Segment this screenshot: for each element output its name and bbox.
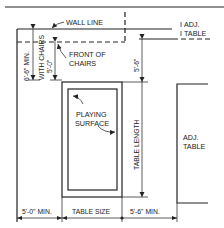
wall-line-label: WALL LINE xyxy=(66,18,103,27)
front-of-chairs-label: FRONT OF xyxy=(69,50,106,59)
dim-label-table-size: TABLE SIZE xyxy=(72,208,110,215)
playing-surface-label: SURFACE xyxy=(75,119,109,128)
front-of-chairs-leader xyxy=(58,44,66,58)
adj-table-top-label: TABLE xyxy=(184,29,206,38)
arrow-icon xyxy=(172,216,177,220)
adj-table-right-label: ADJ. xyxy=(183,133,199,142)
playing-surface-leader xyxy=(73,96,83,104)
table-outer-edge xyxy=(62,82,122,197)
dim-label-top-clearance: 5'-6" xyxy=(133,58,140,72)
wall-line-leader xyxy=(52,22,64,28)
dim-dot xyxy=(120,216,123,219)
adj-table-right-label: TABLE xyxy=(183,142,205,151)
with-chairs-label: WITH CHAIRS xyxy=(38,35,45,80)
dim-label-left-min: 6'-6" MIN. xyxy=(23,51,30,81)
arrow-icon xyxy=(17,216,22,220)
arrow-icon xyxy=(57,216,62,220)
adj-table-top-label: ADJ. xyxy=(184,20,200,29)
front-of-chairs-label: CHAIRS xyxy=(69,59,96,68)
dim-label-chairs: 5'-0" xyxy=(46,59,53,73)
playing-surface xyxy=(68,89,117,190)
clearance-diagram: WALL LINE FRONT OF CHAIRS ADJ. TABLE ADJ… xyxy=(0,0,224,228)
table-length-label: TABLE LENGTH xyxy=(133,119,140,170)
dim-label-bottom-left: 5'-0" MIN. xyxy=(22,208,52,215)
playing-surface-label: PLAYING xyxy=(76,110,107,119)
dim-label-bottom-right: 5'-6" MIN. xyxy=(130,208,160,215)
arrow-icon xyxy=(62,216,67,220)
